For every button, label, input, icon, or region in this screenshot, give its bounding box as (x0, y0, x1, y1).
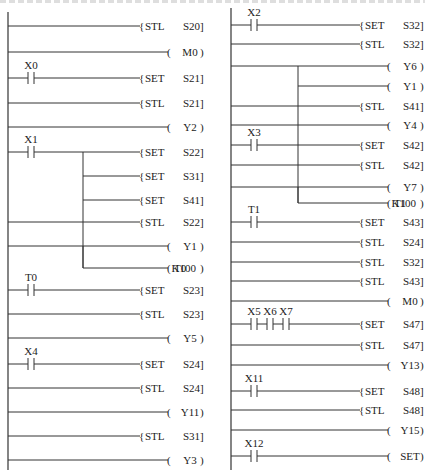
instruction-arg: S22 (183, 216, 200, 228)
instruction-arg: S43 (403, 216, 421, 228)
coil-label: SET (400, 450, 420, 462)
coil-output: (T0K100) (167, 262, 204, 275)
rung: {STLS22] (8, 216, 204, 228)
instruction-set: {SETS47] (359, 318, 424, 330)
rung: (M0) (8, 46, 204, 59)
instruction-arg: S23 (183, 308, 201, 320)
instruction-stl: {STLS47] (359, 339, 424, 351)
ladder-column-left: {STLS20](M0)X0{SETS21]{STLS21](Y2)X1{SET… (8, 12, 204, 470)
open-bracket: { (139, 308, 144, 320)
contact-label: X12 (245, 437, 264, 449)
instruction-arg: S21 (183, 72, 200, 84)
contact-x1: X1 (24, 133, 37, 158)
coil-preset: K100 (392, 197, 417, 209)
contact-label: X5 (247, 305, 261, 317)
close-bracket: ] (200, 430, 204, 442)
rung: (Y15) (231, 424, 424, 437)
instruction-set: {SETS48] (359, 385, 424, 397)
contact-x3: X3 (247, 126, 261, 151)
rung: {STLS32] (231, 38, 424, 50)
ladder-column-right: X2{SETS32]{STLS32](Y6)(Y1){STLS41](Y4)X3… (231, 6, 424, 470)
contact-x7: X7 (279, 305, 293, 330)
open-bracket: { (139, 170, 144, 182)
coil-icon: ( (387, 197, 391, 210)
coil-preset: K100 (172, 262, 197, 274)
coil-output: (M0) (167, 46, 204, 59)
rung: (Y13) (231, 359, 424, 372)
instruction-set: {SETS24] (139, 358, 204, 370)
coil-label: Y1 (403, 80, 416, 92)
close-bracket: ] (200, 216, 204, 228)
rung: X5X6X7{SETS47] (231, 305, 424, 330)
open-bracket: { (359, 275, 364, 287)
close-bracket: ] (420, 19, 424, 31)
open-bracket: { (359, 159, 364, 171)
instruction-op: STL (365, 100, 385, 112)
coil-label: Y3 (183, 454, 197, 466)
contact-label: X1 (24, 133, 37, 145)
rung: (Y11) (8, 406, 204, 419)
rung: {STLS32] (231, 256, 424, 268)
instruction-arg: S48 (403, 385, 421, 397)
close-bracket: ] (420, 216, 424, 228)
instruction-op: STL (365, 159, 385, 171)
contact-x2: X2 (247, 6, 260, 31)
open-bracket: { (359, 385, 364, 397)
coil-close: ) (420, 181, 424, 194)
coil-label: M0 (182, 46, 198, 58)
coil-label: Y15 (401, 424, 420, 436)
instruction-op: STL (145, 382, 165, 394)
open-bracket: { (139, 382, 144, 394)
instruction-op: SET (365, 385, 385, 397)
instruction-set: {SETS21] (139, 72, 204, 84)
instruction-arg: S32 (403, 256, 420, 268)
coil-icon: ( (167, 262, 171, 275)
coil-icon: ( (387, 80, 391, 93)
instruction-arg: S31 (183, 430, 200, 442)
rung: {STLS24] (231, 236, 424, 248)
open-bracket: { (359, 216, 364, 228)
instruction-arg: S31 (183, 170, 200, 182)
close-bracket: ] (200, 170, 204, 182)
instruction-set: {SETS22] (139, 146, 204, 158)
instruction-op: STL (365, 236, 385, 248)
contact-x11: X11 (245, 372, 264, 397)
contact-label: X3 (247, 126, 261, 138)
instruction-stl: {STLS20] (139, 20, 204, 32)
close-bracket: ] (420, 236, 424, 248)
coil-close: ) (200, 332, 204, 345)
instruction-stl: {STLS32] (359, 256, 424, 268)
coil-icon: ( (387, 450, 391, 463)
rung: X0{SETS21] (8, 59, 204, 84)
rung: {STLS31] (8, 430, 204, 442)
coil-icon: ( (387, 295, 391, 308)
instruction-op: SET (145, 146, 165, 158)
rung: {STLS47] (231, 339, 424, 351)
contact-label: X7 (279, 305, 293, 317)
open-bracket: { (139, 20, 144, 32)
open-bracket: { (359, 404, 364, 416)
instruction-stl: {STLS23] (139, 308, 204, 320)
close-bracket: ] (200, 308, 204, 320)
instruction-op: SET (145, 170, 165, 182)
coil-icon: ( (167, 240, 171, 253)
instruction-op: STL (365, 404, 385, 416)
contact-label: X0 (24, 59, 38, 71)
coil-output: (T1K100) (387, 197, 424, 210)
instruction-op: STL (145, 216, 165, 228)
coil-label: Y7 (403, 181, 417, 193)
coil-label: Y5 (183, 332, 197, 344)
instruction-stl: {STLS32] (359, 38, 424, 50)
coil-output: (Y2) (167, 121, 204, 134)
instruction-stl: {STLS21] (139, 97, 204, 109)
coil-icon: ( (167, 406, 171, 419)
coil-close: ) (420, 424, 424, 437)
instruction-set: {SETS31] (139, 170, 204, 182)
instruction-arg: S48 (403, 404, 421, 416)
instruction-op: SET (145, 284, 165, 296)
rung: (Y5) (8, 332, 204, 345)
contact-label: T0 (25, 271, 38, 283)
coil-close: ) (420, 60, 424, 73)
coil-close: ) (420, 359, 424, 372)
instruction-arg: S41 (403, 100, 420, 112)
